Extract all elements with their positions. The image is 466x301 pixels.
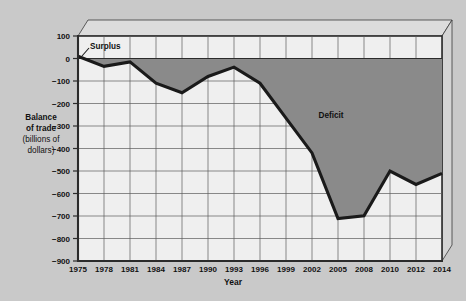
- y-tick-label-n100: −100: [40, 77, 70, 86]
- x-tick-label-2005: 2005: [329, 265, 347, 274]
- x-tick-label-2014: 2014: [433, 265, 451, 274]
- x-tick-label-1987: 1987: [173, 265, 191, 274]
- x-tick-label-1978: 1978: [95, 265, 113, 274]
- x-tick-label-1993: 1993: [225, 265, 243, 274]
- x-tick-label-1999: 1999: [277, 265, 295, 274]
- y-tick-label-0: 0: [44, 54, 70, 63]
- y-tick-label-n500: −500: [40, 167, 70, 176]
- x-tick-label-1981: 1981: [121, 265, 139, 274]
- x-tick-label-2008: 2008: [355, 265, 373, 274]
- deficit-annotation: Deficit: [318, 111, 343, 120]
- chart-3d-right-face: [442, 20, 452, 261]
- x-tick-label-2010: 2010: [381, 265, 399, 274]
- x-tick-label-1996: 1996: [251, 265, 269, 274]
- y-tick-label-n200: −200: [40, 99, 70, 108]
- x-tick-label-2012: 2012: [407, 265, 425, 274]
- y-tick-label-n900: −900: [40, 257, 70, 266]
- y-tick-label-n800: −800: [40, 234, 70, 243]
- y-tick-label-n400: −400: [40, 144, 70, 153]
- x-axis-title: Year: [0, 277, 466, 287]
- x-tick-label-1975: 1975: [69, 265, 87, 274]
- x-tick-label-1990: 1990: [199, 265, 217, 274]
- trade-balance-figure: Balance of trade (billions of dollars) 1…: [0, 0, 466, 301]
- x-tick-label-2002: 2002: [303, 265, 321, 274]
- surplus-annotation: Surplus: [90, 42, 120, 51]
- y-tick-label-n600: −600: [40, 189, 70, 198]
- chart-3d-top-face: [78, 20, 452, 36]
- y-tick-label-n700: −700: [40, 212, 70, 221]
- y-tick-label-n300: −300: [40, 122, 70, 131]
- x-tick-label-1984: 1984: [147, 265, 165, 274]
- y-tick-label-100: 100: [44, 32, 70, 41]
